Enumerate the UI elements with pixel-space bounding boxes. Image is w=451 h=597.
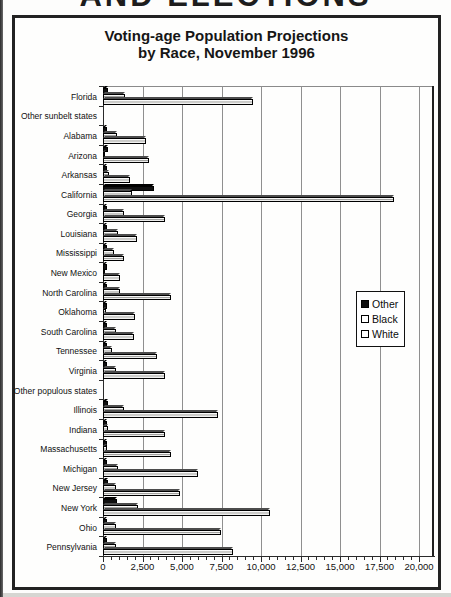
- x-axis-minor-tick: [111, 557, 112, 560]
- bar-white-louisiana: [103, 236, 137, 242]
- bar-3d-top-face: [103, 469, 198, 471]
- legend-item-black: Black: [361, 311, 404, 326]
- bar-3d-top-face: [103, 97, 253, 99]
- x-axis-minor-tick: [332, 557, 333, 560]
- bar-white-south-carolina: [103, 334, 134, 340]
- category-label: Mississippi: [11, 248, 97, 258]
- x-axis-tick-label: 20,000: [397, 561, 441, 572]
- legend-label-white: White: [372, 328, 399, 340]
- bar-white-virginia: [103, 373, 165, 379]
- bar-3d-top-face: [103, 189, 132, 191]
- bar-white-alabama: [103, 138, 146, 144]
- plot-right-border: [432, 86, 434, 556]
- category-label: Arizona: [11, 151, 97, 161]
- x-axis-minor-tick: [316, 557, 317, 560]
- bar-3d-top-face: [103, 175, 130, 177]
- legend-item-white: White: [361, 326, 404, 341]
- legend-swatch-other-icon: [361, 300, 369, 308]
- category-label: Oklahoma: [11, 307, 97, 317]
- x-axis-minor-tick: [245, 557, 246, 560]
- bar-3d-top-face: [103, 410, 218, 412]
- bar-3d-top-face: [103, 478, 108, 480]
- category-label: Louisiana: [11, 229, 97, 239]
- bar-3d-top-face: [103, 327, 116, 329]
- x-axis-minor-tick: [395, 557, 396, 560]
- category-label: Tennessee: [11, 346, 97, 356]
- bar-3d-top-face: [103, 366, 116, 368]
- bar-3d-top-face: [103, 489, 180, 491]
- bar-white-tennessee: [103, 354, 157, 360]
- bar-3d-top-face: [103, 215, 165, 217]
- bar-3d-top-face: [103, 248, 114, 250]
- page-heading-text: AND ELECTIONS: [0, 0, 451, 13]
- bar-3d-top-face: [103, 352, 157, 354]
- category-label: Georgia: [11, 209, 97, 219]
- y-axis-category-tick: [99, 204, 103, 205]
- x-axis-minor-tick: [285, 557, 286, 560]
- bar-white-north-carolina: [103, 295, 171, 301]
- y-axis-category-tick: [99, 145, 103, 146]
- scanned-page: AND ELECTIONS Voting-age Population Proj…: [0, 0, 451, 597]
- bar-3d-top-face: [103, 371, 165, 373]
- x-axis-minor-tick: [253, 557, 254, 560]
- x-axis-minor-tick: [174, 557, 175, 560]
- bar-3d-top-face: [103, 405, 124, 407]
- category-label: Massachusetts: [11, 444, 97, 454]
- category-label: Pennsylvania: [11, 542, 97, 552]
- bar-white-new-york: [103, 510, 270, 516]
- bar-3d-top-face: [103, 170, 109, 172]
- x-axis-tick-label: 7,500: [200, 561, 244, 572]
- category-label: Illinois: [11, 405, 97, 415]
- x-axis-minor-tick: [348, 557, 349, 560]
- x-axis-minor-tick: [364, 557, 365, 560]
- page-scan-edge: [0, 0, 3, 597]
- category-label: Virginia: [11, 366, 97, 376]
- x-axis-minor-tick: [198, 557, 199, 560]
- bar-3d-top-face: [103, 430, 165, 432]
- x-axis-minor-tick: [214, 557, 215, 560]
- x-axis-tick-label: 5,000: [160, 561, 204, 572]
- x-axis-minor-tick: [403, 557, 404, 560]
- y-axis-category-tick: [99, 341, 103, 342]
- x-axis-minor-tick: [356, 557, 357, 560]
- bar-3d-top-face: [103, 497, 117, 499]
- category-label: Florida: [11, 92, 97, 102]
- bar-3d-top-face: [103, 156, 149, 158]
- x-axis-minor-tick: [372, 557, 373, 560]
- bar-white-georgia: [103, 217, 165, 223]
- x-axis-tick-label: 17,500: [358, 561, 402, 572]
- x-axis-minor-tick: [190, 557, 191, 560]
- x-axis-minor-tick: [269, 557, 270, 560]
- bar-3d-top-face: [103, 204, 107, 206]
- bar-white-illinois: [103, 412, 218, 418]
- x-axis-minor-tick: [308, 557, 309, 560]
- bar-white-florida: [103, 99, 253, 105]
- chart-legend: Other Black White: [356, 291, 405, 347]
- category-label: New Mexico: [11, 268, 97, 278]
- bar-3d-top-face: [103, 229, 118, 231]
- gridline-vertical: [419, 86, 420, 556]
- bar-3d-top-face: [103, 273, 120, 275]
- x-axis-line: [99, 556, 435, 557]
- bar-3d-top-face: [103, 287, 120, 289]
- legend-swatch-black-icon: [361, 315, 369, 323]
- bar-3d-top-face: [103, 332, 134, 334]
- category-label: Michigan: [11, 464, 97, 474]
- chart-title-line2: by Race, November 1996: [15, 44, 438, 61]
- bar-white-new-jersey: [103, 491, 180, 497]
- bar-3d-top-face: [103, 439, 107, 441]
- bar-3d-top-face: [103, 131, 117, 133]
- y-axis-category-tick: [99, 380, 103, 381]
- bar-3d-top-face: [103, 209, 124, 211]
- bar-3d-top-face: [103, 195, 394, 197]
- bar-3d-top-face: [103, 542, 116, 544]
- category-label: California: [11, 190, 97, 200]
- x-axis-minor-tick: [277, 557, 278, 560]
- clipped-page-heading: AND ELECTIONS: [0, 0, 451, 13]
- y-axis-category-tick: [99, 106, 103, 107]
- gridline-vertical: [301, 86, 302, 556]
- chart-title-line1: Voting-age Population Projections: [15, 27, 438, 44]
- category-label: Alabama: [11, 131, 97, 141]
- bar-3d-top-face: [103, 547, 233, 549]
- y-axis-category-tick: [99, 478, 103, 479]
